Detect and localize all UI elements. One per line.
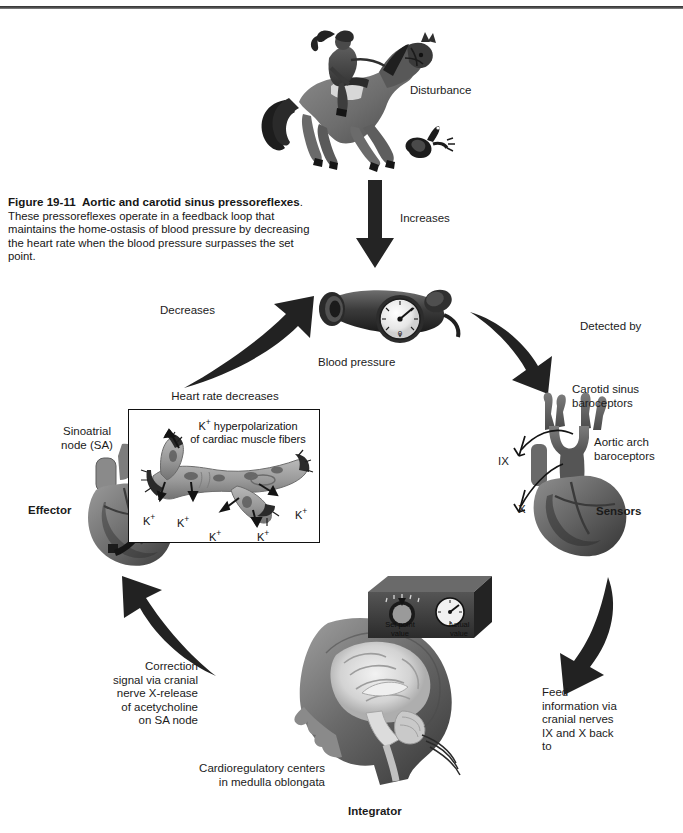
- label-sinoatrial-node: Sinoatrial node (SA): [44, 425, 130, 452]
- blood-pressure-gauge-illustration: 0: [318, 275, 468, 355]
- page-top-rule: [0, 6, 683, 9]
- label-blood-pressure: Blood pressure: [318, 356, 458, 370]
- label-heart-rate-decreases: Heart rate decreases: [150, 390, 300, 404]
- k-label-1: K+: [143, 512, 155, 527]
- arrow-detected-by: [468, 310, 578, 400]
- label-correction-signal: Correction signal via cranial nerve X-re…: [78, 660, 198, 728]
- k-label-3: K+: [295, 506, 307, 521]
- label-aortic-arch-baroceptors: Aortic arch baroceptors: [594, 436, 683, 463]
- k-label-2: K+: [177, 514, 189, 529]
- label-nerve-x: X: [518, 503, 542, 517]
- figure-number: Figure 19-11: [8, 195, 76, 208]
- figure-caption: Figure 19-11 Aortic and carotid sinus pr…: [8, 195, 323, 264]
- label-set-point-value: Set point value: [372, 620, 428, 638]
- potassium-hyperpolarization-panel: K+ hyperpolarization of cardiac muscle f…: [128, 409, 320, 543]
- label-integrator: Integrator: [348, 805, 468, 819]
- k-label-5: K+: [257, 528, 269, 543]
- cardiac-muscle-fiber-illustration: [135, 432, 313, 538]
- heart-with-baroceptors-illustration: [505, 392, 655, 567]
- control-box-illustration: [358, 572, 498, 650]
- k-label-4: K+: [209, 528, 221, 543]
- svg-text:0: 0: [398, 329, 403, 338]
- label-increases: Increases: [400, 212, 490, 226]
- label-feed-information: Feed information via cranial nerves IX a…: [542, 686, 662, 754]
- label-sensors: Sensors: [596, 505, 676, 519]
- label-actual-value: Actual value: [434, 620, 484, 638]
- potassium-symbol-title: K+: [198, 420, 210, 432]
- arrow-increases: [352, 180, 398, 270]
- label-nerve-ix: IX: [498, 455, 522, 469]
- label-cardioregulatory-centers: Cardioregulatory centers in medulla oblo…: [175, 762, 325, 789]
- horse-and-rider-illustration: [255, 28, 470, 178]
- label-disturbance: Disturbance: [410, 84, 520, 98]
- arrow-feed-information: [546, 575, 646, 700]
- label-carotid-sinus-baroceptors: Carotid sinus baroceptors: [572, 383, 680, 410]
- figure-title: Aortic and carotid sinus pressoreflexes: [82, 195, 300, 208]
- label-detected-by: Detected by: [580, 320, 680, 334]
- label-decreases: Decreases: [160, 304, 250, 318]
- label-effector: Effector: [28, 504, 98, 518]
